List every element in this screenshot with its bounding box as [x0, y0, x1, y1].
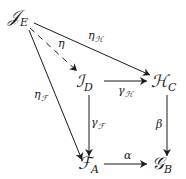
node-i-d: ℐD [76, 73, 93, 93]
node-h-c: ℋC [151, 73, 176, 93]
node-j-e-base: 𝒥 [8, 6, 20, 26]
label-gamma-f-sub: ℱ [98, 122, 104, 131]
label-gamma-h-text: γ [118, 84, 125, 97]
label-alpha: α [124, 150, 131, 161]
node-i-d-base: ℐ [76, 71, 84, 91]
label-beta: β [156, 119, 162, 130]
label-eta-f: ηℱ [34, 89, 47, 103]
label-eta-h-sub: ℋ [95, 35, 103, 44]
label-gamma-h: γℋ [118, 85, 133, 99]
node-f-a-sub: A [91, 163, 99, 176]
label-eta-text: η [58, 37, 65, 50]
node-f-a-base: ℱ [78, 153, 91, 173]
label-eta-h: ηℋ [88, 30, 103, 44]
node-j-e-sub: E [20, 16, 28, 29]
node-i-d-sub: D [84, 81, 93, 94]
node-g-b-sub: B [164, 163, 172, 176]
node-g-b: 𝒢B [152, 155, 172, 175]
label-alpha-text: α [124, 149, 131, 162]
label-beta-text: β [156, 118, 162, 131]
node-h-c-sub: C [168, 81, 176, 94]
node-j-e: 𝒥E [8, 8, 28, 28]
label-gamma-h-sub: ℋ [125, 90, 133, 99]
label-gamma-f-text: γ [91, 116, 98, 129]
label-eta-f-text: η [34, 88, 41, 101]
node-g-b-base: 𝒢 [152, 153, 164, 173]
node-h-c-base: ℋ [151, 71, 168, 91]
node-f-a: ℱA [78, 155, 99, 175]
label-eta: η [58, 38, 65, 49]
label-eta-f-sub: ℱ [41, 94, 47, 103]
label-gamma-f: γℱ [91, 117, 104, 131]
label-eta-h-text: η [88, 29, 95, 42]
